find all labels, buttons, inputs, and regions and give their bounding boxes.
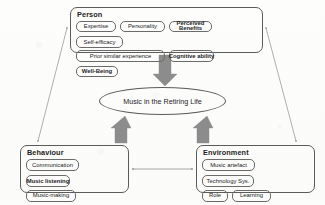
- center-node-music-in-the-retiring-life[interactable]: Music in the Retiring Life: [99, 87, 226, 115]
- group-environment-title: Environment: [203, 148, 310, 157]
- group-environment-row-1: Music artefact Technology Sys.: [202, 159, 310, 187]
- chip-technology-sys[interactable]: Technology Sys.: [202, 175, 254, 187]
- block-arrow-environment-to-center: [193, 116, 213, 143]
- chip-role[interactable]: Role: [202, 190, 228, 202]
- chip-learning[interactable]: Learning: [232, 190, 271, 202]
- chip-communication[interactable]: Communication: [26, 159, 79, 171]
- chip-self-efficacy[interactable]: Self-efficacy: [76, 36, 123, 48]
- chip-music-making[interactable]: Music-making: [26, 190, 76, 202]
- chip-prior-similar-experience[interactable]: Prior similar experience: [76, 50, 165, 62]
- chip-personality[interactable]: Personality: [120, 21, 165, 33]
- group-environment: Environment Music artefact Technology Sy…: [196, 145, 315, 193]
- chip-expertise[interactable]: Expertise: [76, 21, 116, 33]
- chip-music-listening[interactable]: Music listening: [26, 175, 70, 187]
- group-behaviour-title: Behaviour: [27, 148, 124, 157]
- chip-music-artefact[interactable]: Music artefact: [202, 159, 255, 171]
- group-person-row-2: Prior similar experience Cognitive abili…: [76, 50, 258, 77]
- group-person-row-1: Expertise Personality Perceived Benefits…: [76, 21, 258, 48]
- connector-person-environment: [266, 28, 296, 141]
- connector-person-behaviour: [38, 28, 67, 141]
- group-person-title: Person: [77, 10, 258, 19]
- group-behaviour-row-2: Music-making Information: [26, 190, 124, 205]
- chip-well-being[interactable]: Well-Being: [76, 66, 118, 78]
- group-environment-row-2: Role Learning Synchrony: [202, 190, 310, 205]
- group-behaviour: Behaviour Communication Music listening …: [20, 145, 129, 193]
- group-person: Person Expertise Personality Perceived B…: [70, 7, 263, 53]
- chip-cognitive-ability[interactable]: Cognitive ability: [169, 50, 214, 62]
- group-behaviour-row-1: Communication Music listening: [26, 159, 124, 187]
- diagram-canvas: Person Expertise Personality Perceived B…: [0, 0, 325, 204]
- block-arrow-behaviour-to-center: [111, 116, 131, 143]
- chip-perceived-benefits[interactable]: Perceived Benefits: [169, 21, 212, 33]
